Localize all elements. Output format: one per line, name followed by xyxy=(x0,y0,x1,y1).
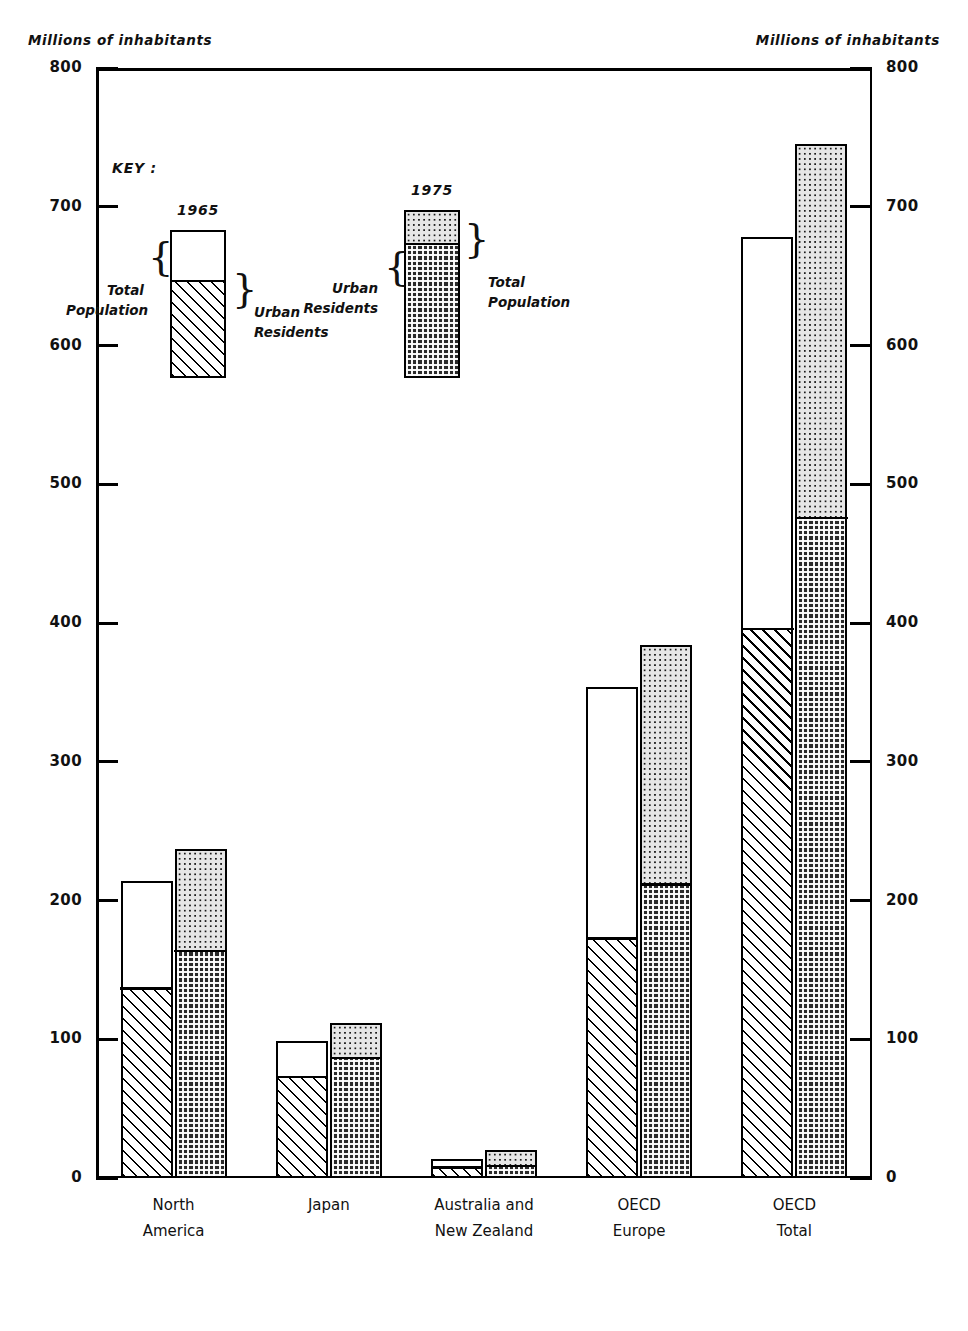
y-tick-label-l-500: 500 xyxy=(49,474,82,492)
y-tick-label-r-400: 400 xyxy=(886,613,919,631)
y-tick-label-l-100: 100 xyxy=(49,1029,82,1047)
y-tick-label-r-800: 800 xyxy=(886,58,919,76)
y-tick-r-700 xyxy=(850,205,872,208)
y-tick-r-800 xyxy=(850,67,872,70)
bar-1965-cat4 xyxy=(741,237,793,1178)
y-tick-r-300 xyxy=(850,760,872,763)
y-tick-l-800 xyxy=(96,67,118,70)
key-1975-urban-brace: { xyxy=(384,246,409,286)
1975-urban-segment-cat1 xyxy=(332,1058,380,1176)
1965-urban-segment-cat3 xyxy=(588,939,636,1176)
1965-nonurban-segment-cat3 xyxy=(588,689,636,939)
y-tick-r-200 xyxy=(850,899,872,902)
key-year-1975: 1975 xyxy=(411,182,453,198)
chart-key: KEY : 1965 { TotalPopulation } UrbanResi… xyxy=(112,160,632,410)
bar-1965-cat1 xyxy=(276,1041,328,1178)
key-title: KEY : xyxy=(112,160,157,176)
y-tick-label-l-600: 600 xyxy=(49,336,82,354)
key-1975-urban-segment xyxy=(406,243,458,376)
1965-nonurban-segment-cat4 xyxy=(743,239,791,629)
bar-1975-cat1 xyxy=(330,1023,382,1178)
key-1965-nonurban-segment xyxy=(172,232,224,280)
urban-divider-cat4 xyxy=(795,517,847,519)
key-1975-total-brace: } xyxy=(464,218,489,258)
left-axis-caption: Millions of inhabitants xyxy=(28,32,212,48)
y-tick-r-600 xyxy=(850,344,872,347)
y-tick-label-r-300: 300 xyxy=(886,752,919,770)
x-category-label-4: OECDTotal xyxy=(773,1192,816,1244)
urban-divider-cat3 xyxy=(586,937,638,939)
y-tick-r-400 xyxy=(850,622,872,625)
key-1975-total-label: TotalPopulation xyxy=(488,272,570,312)
1975-nonurban-segment-cat4 xyxy=(797,146,845,518)
key-bar-1965 xyxy=(170,230,226,378)
y-tick-label-r-100: 100 xyxy=(886,1029,919,1047)
y-tick-label-r-0: 0 xyxy=(886,1168,897,1186)
y-tick-r-500 xyxy=(850,483,872,486)
1965-urban-segment-cat2 xyxy=(433,1168,481,1176)
y-tick-l-100 xyxy=(96,1038,118,1041)
1975-urban-segment-cat3 xyxy=(642,884,690,1176)
1975-nonurban-segment-cat0 xyxy=(177,851,225,951)
urban-divider-cat4 xyxy=(741,628,793,630)
y-tick-label-l-700: 700 xyxy=(49,197,82,215)
urban-divider-cat3 xyxy=(640,883,692,885)
1965-urban-segment-cat0 xyxy=(123,989,171,1176)
bar-1975-cat0 xyxy=(175,849,227,1178)
urban-divider-cat0 xyxy=(120,987,172,989)
y-tick-label-r-600: 600 xyxy=(886,336,919,354)
y-tick-l-200 xyxy=(96,899,118,902)
y-tick-label-r-500: 500 xyxy=(886,474,919,492)
y-tick-l-300 xyxy=(96,760,118,763)
urban-divider-cat1 xyxy=(330,1057,382,1059)
right-axis-caption: Millions of inhabitants xyxy=(756,32,940,48)
1975-urban-segment-cat0 xyxy=(177,951,225,1176)
bar-1975-cat3 xyxy=(640,645,692,1178)
key-1965-total-brace: { xyxy=(148,236,173,276)
1965-nonurban-segment-cat1 xyxy=(278,1043,326,1078)
urban-divider-cat2 xyxy=(431,1166,483,1168)
1975-nonurban-segment-cat3 xyxy=(642,647,690,884)
bar-1975-cat4 xyxy=(795,144,847,1178)
bar-1965-cat3 xyxy=(586,687,638,1178)
bar-1965-cat0 xyxy=(121,881,173,1178)
key-year-1965: 1965 xyxy=(177,202,219,218)
1965-urban-segment-cat1 xyxy=(278,1077,326,1176)
bar-1975-cat2 xyxy=(485,1150,537,1178)
y-tick-label-l-400: 400 xyxy=(49,613,82,631)
key-1975-urban-label: UrbanResidents xyxy=(300,278,378,318)
1975-urban-segment-cat4 xyxy=(797,518,845,1176)
bar-1965-cat2 xyxy=(431,1159,483,1178)
y-tick-l-0 xyxy=(96,1177,118,1180)
key-1975-nonurban-segment xyxy=(406,212,458,243)
key-1965-total-label: TotalPopulation xyxy=(66,280,144,320)
key-bar-1975 xyxy=(404,210,460,378)
1975-urban-segment-cat2 xyxy=(487,1166,535,1176)
y-tick-label-l-800: 800 xyxy=(49,58,82,76)
urban-divider-cat2 xyxy=(485,1165,537,1167)
urban-divider-cat1 xyxy=(276,1076,328,1078)
x-category-label-2: Australia andNew Zealand xyxy=(434,1192,533,1244)
y-tick-label-l-300: 300 xyxy=(49,752,82,770)
x-category-label-0: NorthAmerica xyxy=(143,1192,205,1244)
y-tick-label-l-200: 200 xyxy=(49,891,82,909)
y-tick-label-r-700: 700 xyxy=(886,197,919,215)
x-category-label-3: OECDEurope xyxy=(613,1192,666,1244)
y-tick-label-r-200: 200 xyxy=(886,891,919,909)
key-1965-urban-segment xyxy=(172,280,224,376)
y-tick-r-100 xyxy=(850,1038,872,1041)
y-tick-r-0 xyxy=(850,1177,872,1180)
1965-nonurban-segment-cat0 xyxy=(123,883,171,988)
x-category-label-1: Japan xyxy=(308,1192,350,1218)
1975-nonurban-segment-cat1 xyxy=(332,1025,380,1058)
y-tick-l-500 xyxy=(96,483,118,486)
1965-urban-segment-cat4 xyxy=(743,629,791,1176)
urban-divider-cat0 xyxy=(174,950,226,952)
y-tick-l-400 xyxy=(96,622,118,625)
y-tick-label-l-0: 0 xyxy=(71,1168,82,1186)
top-axis-line xyxy=(96,68,872,71)
